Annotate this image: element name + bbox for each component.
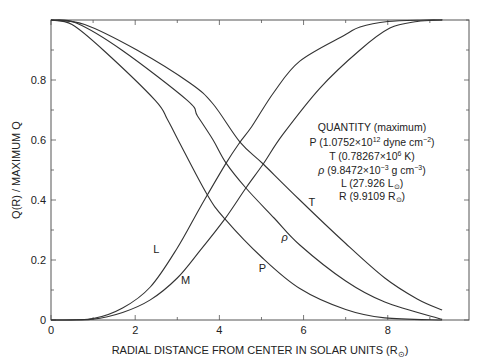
y-tick-label: 0.4 [31,194,46,206]
legend-line-density: ρ (9.8472×10−3 g cm−3) [317,164,426,176]
curve-label: L [153,243,159,255]
x-axis-label: RADIAL DISTANCE FROM CENTER IN SOLAR UNI… [112,344,409,359]
legend-title: QUANTITY (maximum) [318,121,426,133]
legend-line-radius: R (9.9109 R⊙) [339,190,405,203]
curve-label: T [309,196,316,208]
y-tick-label: 0.8 [31,74,46,86]
legend-line-luminosity: L (27.926 L⊙) [341,177,403,190]
x-tick-label: 2 [132,324,138,336]
curve-labels: PρTLM [153,196,315,286]
legend-line-temperature: T (0.78267×106 K) [329,150,415,162]
chart: 0246800.20.40.60.8 PρTLM RADIAL DISTANCE… [0,0,486,364]
x-tick-label: 8 [385,324,391,336]
y-tick-label: 0 [40,314,46,326]
curve-label: M [181,274,190,286]
x-tick-label: 4 [216,324,222,336]
y-tick-label: 0.2 [31,254,46,266]
x-tick-label: 6 [301,324,307,336]
quantity-legend: QUANTITY (maximum) P (1.0752×1012 dyne c… [309,121,434,203]
legend-line-pressure: P (1.0752×1012 dyne cm−2) [309,136,434,148]
curve-label: ρ [280,231,287,243]
y-tick-label: 0.6 [31,134,46,146]
y-axis-label: Q(R) / MAXIMUM Q [10,121,22,219]
x-tick-label: 0 [48,324,54,336]
axis-tick-labels: 0246800.20.40.60.8 [31,74,391,336]
curve-label: P [259,262,266,274]
